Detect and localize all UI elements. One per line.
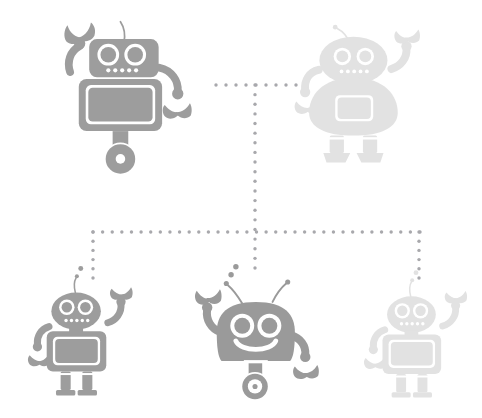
node-hit-top-right[interactable] bbox=[302, 26, 452, 178]
node-hit-top-left[interactable] bbox=[56, 22, 208, 180]
node-hit-bottom-right[interactable] bbox=[372, 272, 482, 400]
diagram-canvas bbox=[0, 0, 482, 418]
connector-main-horizontal-bus bbox=[91, 230, 421, 233]
node-hit-bottom-center[interactable] bbox=[200, 266, 326, 406]
connector-center-vertical-trunk bbox=[253, 83, 256, 269]
node-hit-bottom-left[interactable] bbox=[36, 268, 156, 398]
